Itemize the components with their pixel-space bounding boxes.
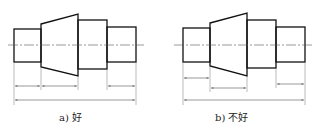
figure-b-not-good [174, 13, 314, 105]
figure-a-good [8, 14, 144, 105]
caption-a: a) 好 [59, 109, 82, 124]
extension-lines-a [14, 62, 136, 105]
shaft-drawings [0, 0, 320, 132]
caption-b: b) 不好 [215, 109, 248, 124]
shaft-outline-b [183, 13, 305, 76]
dimension-lines-b [184, 78, 304, 100]
extension-lines-b [183, 62, 305, 105]
dimension-lines-a [15, 86, 135, 100]
